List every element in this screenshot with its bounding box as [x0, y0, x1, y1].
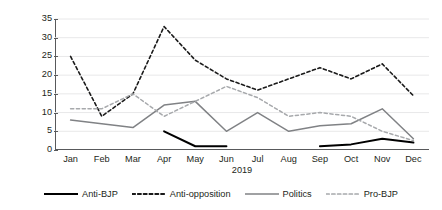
series-line-pro-bjp	[71, 86, 414, 140]
x-axis-tick-label: Feb	[86, 153, 117, 165]
y-axis-tickmark	[54, 94, 58, 95]
chart-legend: Anti-BJPAnti-oppositionPoliticsPro-BJP	[0, 186, 442, 202]
plot-area	[55, 19, 429, 150]
x-axis-tick-label: Mar	[117, 153, 148, 165]
legend-swatch-anti-opposition-icon	[132, 190, 166, 198]
legend-swatch-anti-bjp-icon	[44, 190, 78, 198]
x-axis-tick-label: Sep	[304, 153, 335, 165]
y-axis-tick-label: 5	[30, 126, 52, 135]
x-axis-tick-label: Jun	[211, 153, 242, 165]
y-axis-tickmark	[54, 150, 58, 151]
legend-item-anti-opposition[interactable]: Anti-opposition	[132, 189, 231, 199]
y-axis-tick-label: 10	[30, 108, 52, 117]
y-axis-tick-labels: 05101520253035	[30, 19, 52, 150]
legend-item-pro-bjp[interactable]: Pro-BJP	[326, 189, 398, 199]
y-axis-tickmark	[54, 131, 58, 132]
y-axis-tick-label: 30	[30, 33, 52, 42]
x-axis-tick-label: Nov	[367, 153, 398, 165]
legend-swatch-politics-icon	[245, 190, 279, 198]
y-axis-tickmark	[54, 38, 58, 39]
series-lines	[55, 19, 429, 150]
y-axis-tick-label: 0	[30, 145, 52, 154]
y-axis-tickmark	[54, 75, 58, 76]
x-axis-tick-label: Jan	[55, 153, 86, 165]
series-line-anti-bjp	[164, 131, 226, 146]
x-axis-tick-label: Oct	[336, 153, 367, 165]
x-axis-tick-label: Dec	[398, 153, 429, 165]
y-axis-tick-label: 15	[30, 89, 52, 98]
y-axis-tick-label: 20	[30, 70, 52, 79]
line-chart: 05101520253035 Number of debates per mon…	[0, 0, 442, 210]
x-axis-title: 2019	[55, 165, 429, 175]
y-axis-title-wrap: Number of debates per month	[0, 19, 14, 150]
legend-label: Pro-BJP	[364, 189, 398, 199]
y-axis-tickmarks	[54, 19, 59, 150]
y-axis-tickmark	[54, 113, 58, 114]
y-axis-tick-label: 25	[30, 51, 52, 60]
y-axis-tickmark	[54, 56, 58, 57]
x-axis-tick-label: Apr	[149, 153, 180, 165]
series-line-anti-opposition	[71, 26, 414, 116]
legend-item-anti-bjp[interactable]: Anti-BJP	[44, 189, 118, 199]
x-axis-tick-label: May	[180, 153, 211, 165]
series-line-politics	[71, 101, 414, 138]
x-axis-tick-label: Jul	[242, 153, 273, 165]
legend-label: Anti-opposition	[170, 189, 231, 199]
legend-label: Politics	[283, 189, 312, 199]
series-line-anti-bjp	[320, 139, 414, 146]
legend-swatch-pro-bjp-icon	[326, 190, 360, 198]
legend-item-politics[interactable]: Politics	[245, 189, 312, 199]
legend-label: Anti-BJP	[82, 189, 118, 199]
y-axis-tick-label: 35	[30, 14, 52, 23]
x-axis-tick-label: Aug	[273, 153, 304, 165]
y-axis-tickmark	[54, 19, 58, 20]
